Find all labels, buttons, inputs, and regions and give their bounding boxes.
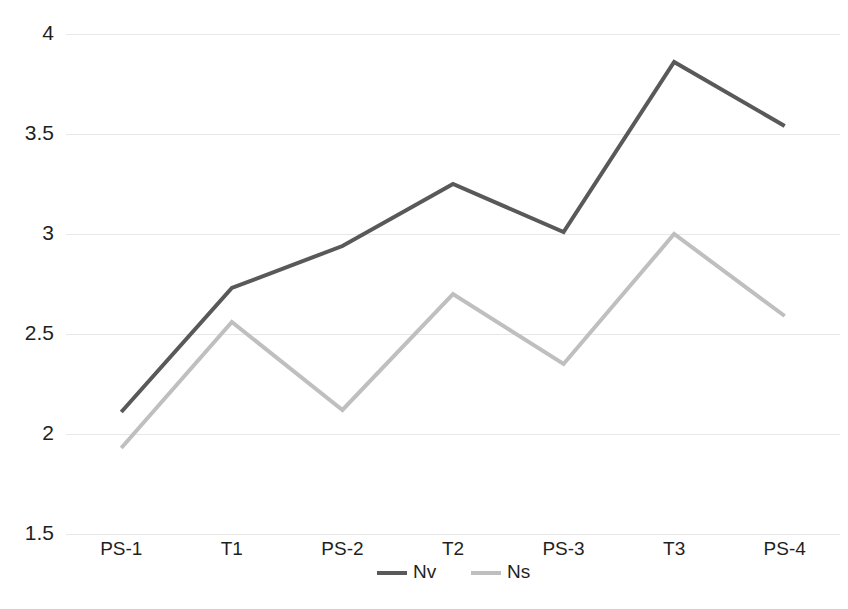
x-tick-label-ps-3: PS-3 — [542, 538, 584, 559]
chart-background — [0, 0, 848, 609]
legend-label-ns: Ns — [507, 561, 530, 582]
x-tick-label-t2: T2 — [442, 538, 464, 559]
line-chart: 1.522.533.54 PS-1T1PS-2T2PS-3T3PS-4 NvNs — [0, 0, 848, 609]
x-tick-label-t1: T1 — [221, 538, 243, 559]
x-tick-label-ps-4: PS-4 — [764, 538, 807, 559]
y-tick-label: 3 — [42, 221, 54, 244]
x-tick-label-ps-1: PS-1 — [100, 538, 142, 559]
x-tick-label-ps-2: PS-2 — [321, 538, 363, 559]
y-tick-label: 1.5 — [25, 521, 54, 544]
legend-label-nv: Nv — [413, 561, 437, 582]
y-tick-label: 3.5 — [25, 121, 54, 144]
chart-canvas: 1.522.533.54 PS-1T1PS-2T2PS-3T3PS-4 NvNs — [0, 0, 848, 609]
y-tick-label: 4 — [42, 21, 54, 44]
y-tick-label: 2 — [42, 421, 54, 444]
y-tick-label: 2.5 — [25, 321, 54, 344]
x-tick-label-t3: T3 — [663, 538, 685, 559]
